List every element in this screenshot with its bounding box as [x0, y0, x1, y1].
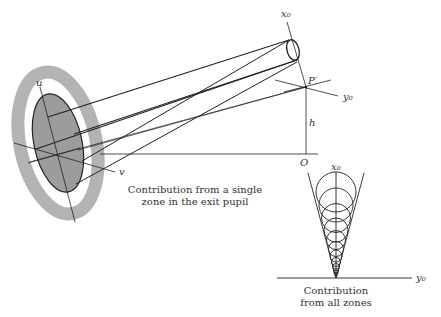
label-v: v — [119, 166, 125, 177]
label-x0-bottom: x₀ — [331, 161, 341, 172]
label-y0-top: y₀ — [342, 91, 353, 102]
label-y0-bottom: y₀ — [415, 272, 426, 283]
caption-all-zones-line1: Contribution — [304, 285, 369, 296]
label-x0-top: x₀ — [281, 8, 291, 19]
label-h: h — [309, 117, 315, 128]
label-u: u — [36, 77, 42, 88]
all-zones-cone — [308, 172, 364, 278]
caption-all-zones-line2: from all zones — [300, 297, 371, 308]
label-O: O — [300, 157, 308, 168]
x0-axis-top — [287, 22, 306, 87]
diagram-canvas: x₀ P′ y₀ h O u v Contribution from a sin… — [0, 0, 441, 317]
p-prime-point — [305, 86, 307, 88]
caption-single-zone-line2: zone in the exit pupil — [142, 196, 249, 207]
caption-single-zone-line1: Contribution from a single — [128, 184, 262, 195]
label-p-prime: P′ — [307, 75, 318, 86]
optics-diagram: x₀ P′ y₀ h O u v Contribution from a sin… — [0, 0, 441, 317]
